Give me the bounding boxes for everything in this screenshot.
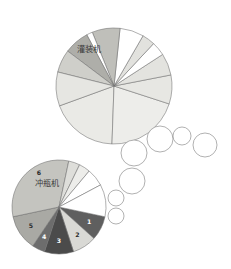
chart-figure: 123456 灌装机 冲瓶机 xyxy=(0,0,231,269)
bubble-4[interactable] xyxy=(193,133,217,157)
filling-machine-pie-title: 灌装机 xyxy=(77,44,102,54)
bubble-7[interactable] xyxy=(108,208,124,224)
bottle-rinser-label-5: 5 xyxy=(29,222,33,229)
filling-machine-pie xyxy=(56,28,172,144)
bubble-6[interactable] xyxy=(108,190,124,206)
bubble-1[interactable] xyxy=(121,140,147,166)
bottle-rinser-label-6: 6 xyxy=(37,169,41,176)
bubble-3[interactable] xyxy=(173,127,191,145)
bottle-rinser-label-4: 4 xyxy=(42,233,47,240)
bottle-rinser-pie-title: 冲瓶机 xyxy=(35,178,60,188)
bottle-rinser-label-2: 2 xyxy=(75,231,79,238)
chart-canvas: 123456 灌装机 冲瓶机 xyxy=(0,0,231,269)
bottle-rinser-label-3: 3 xyxy=(57,237,61,244)
bottle-rinser-pie: 123456 xyxy=(12,160,106,254)
bottle-rinser-label-1: 1 xyxy=(87,218,91,225)
bubble-5[interactable] xyxy=(119,168,145,194)
bubble-2[interactable] xyxy=(147,126,173,152)
